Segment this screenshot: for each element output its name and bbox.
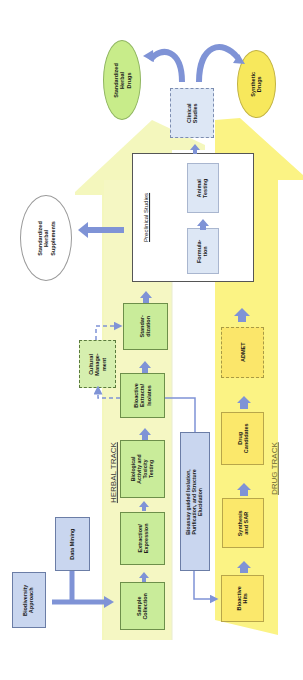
curve-to-herbal-drugs [150,52,182,82]
supplements-arrow [78,222,124,238]
up-arrows [139,144,251,582]
connectors [0,0,303,680]
curve-to-synthetic-drugs [199,47,238,82]
